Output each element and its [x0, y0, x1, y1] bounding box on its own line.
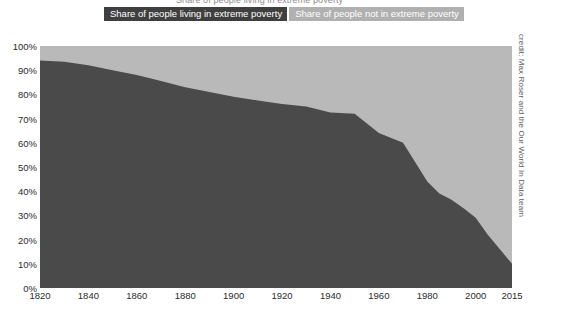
legend-item-not-in-poverty: Share of people not in extreme poverty: [289, 7, 464, 21]
y-axis: 0%10%20%30%40%50%60%70%80%90%100%: [0, 46, 37, 288]
x-tick-label: 1920: [271, 290, 292, 301]
y-tick-label: 80%: [0, 89, 37, 100]
credit-text: credit: Max Roser and the Our World In D…: [514, 34, 528, 292]
y-tick-label: 90%: [0, 65, 37, 76]
chart-figure: Share of people living in extreme povert…: [0, 0, 561, 319]
x-tick-label: 1900: [223, 290, 244, 301]
legend-label-in-poverty: Share of people living in extreme povert…: [110, 7, 282, 21]
y-tick-label: 70%: [0, 113, 37, 124]
y-tick-label: 40%: [0, 186, 37, 197]
x-tick-label: 2000: [465, 290, 486, 301]
x-tick-label: 1880: [175, 290, 196, 301]
y-tick-label: 60%: [0, 137, 37, 148]
x-tick-label: 1860: [126, 290, 147, 301]
x-tick-label: 1980: [417, 290, 438, 301]
y-tick-label: 20%: [0, 234, 37, 245]
legend-label-not-in-poverty: Share of people not in extreme poverty: [295, 7, 459, 21]
y-tick-label: 10%: [0, 258, 37, 269]
area-series-in-poverty: [40, 61, 512, 288]
chart-legend: Share of people living in extreme povert…: [104, 7, 464, 21]
x-axis: 1820184018601880190019201940196019802000…: [40, 290, 512, 306]
cropped-title: Share of people living in extreme povert…: [0, 0, 561, 6]
y-tick-label: 30%: [0, 210, 37, 221]
plot-area: [40, 46, 512, 288]
x-tick-label: 1960: [368, 290, 389, 301]
x-tick-label: 1940: [320, 290, 341, 301]
y-tick-label: 50%: [0, 162, 37, 173]
y-tick-label: 100%: [0, 41, 37, 52]
x-tick-label: 1820: [29, 290, 50, 301]
legend-item-in-poverty: Share of people living in extreme povert…: [104, 7, 287, 21]
cropped-title-text: Share of people living in extreme povert…: [176, 0, 343, 5]
area-chart-svg: [40, 46, 512, 288]
x-tick-label: 1840: [78, 290, 99, 301]
